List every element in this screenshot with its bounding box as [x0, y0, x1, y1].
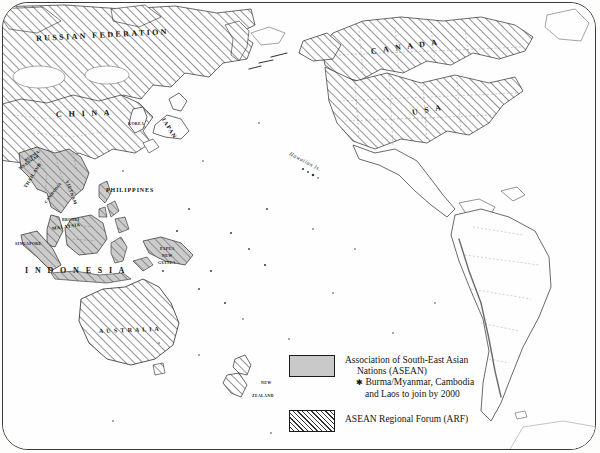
map-figure: RUSSIAN FEDERATIONC A N A D AC H I N AU …: [0, 0, 600, 453]
legend-asean-line2: Nations (ASEAN): [345, 366, 474, 377]
legend-row-arf: ASEAN Regional Forum (ARF): [289, 410, 519, 432]
legend-asean-line1: Association of South-East Asian: [345, 355, 474, 366]
map-legend: Association of South-East Asian Nations …: [289, 355, 519, 439]
legend-asean-text: Association of South-East Asian Nations …: [345, 355, 474, 400]
arf-swatch-icon: [289, 410, 335, 432]
map-frame: RUSSIAN FEDERATIONC A N A D AC H I N AU …: [2, 2, 596, 450]
asean-swatch-icon: [289, 355, 335, 377]
legend-asean-note1: Burma/Myanmar, Cambodia: [365, 377, 474, 387]
asterisk-icon: ✱: [356, 378, 363, 387]
legend-arf-label: ASEAN Regional Forum (ARF): [345, 410, 468, 425]
legend-row-asean: Association of South-East Asian Nations …: [289, 355, 519, 400]
legend-asean-note2: and Laos to join by 2000: [345, 389, 474, 400]
legend-asean-note-line1: ✱ Burma/Myanmar, Cambodia: [345, 377, 474, 388]
